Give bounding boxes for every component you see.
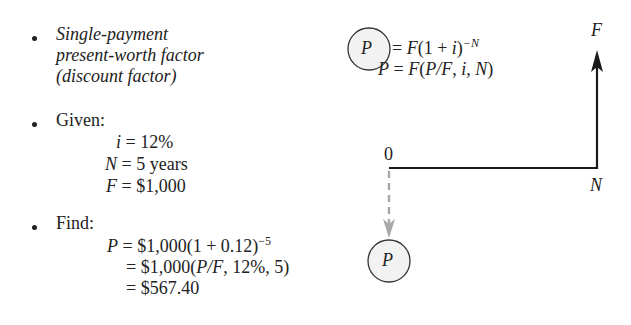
f2-eq: = [389,59,408,79]
formula-line1: = F(1 + i)−N [392,38,479,59]
timeline-start-label: 0 [384,144,393,165]
f1-mid: (1 + [418,38,452,58]
f2-pf: P/F [425,59,452,79]
f2-P: P [378,59,389,79]
f2-F: F [408,59,419,79]
present-value-label: P [382,250,393,271]
future-value-label: F [591,20,602,41]
f1-eq: = [392,38,407,58]
timeline-end-label: N [590,175,602,196]
formula-circled-p: P [361,38,372,59]
f1-exp: −N [463,36,479,50]
f2-comma: , [452,59,461,79]
f2-close: ) [487,59,493,79]
f1-F: F [407,38,418,58]
f2-comma2: , [466,59,475,79]
cash-flow-diagram [0,0,631,325]
f2-N: N [475,59,487,79]
formula-line2: P = F(P/F, i, N) [378,59,493,80]
